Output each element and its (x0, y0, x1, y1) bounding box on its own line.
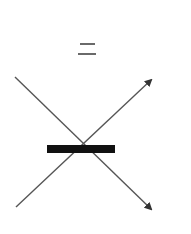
crossing-arrows-icon (0, 0, 191, 234)
diagonal-arrow-up (16, 80, 151, 207)
black-bar (47, 145, 115, 153)
diagram-canvas (0, 0, 191, 234)
